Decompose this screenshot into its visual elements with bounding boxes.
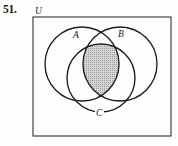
universal-set-label: U: [35, 6, 43, 16]
set-label-a: A: [72, 30, 79, 40]
set-label-b: B: [118, 29, 124, 39]
set-label-c: C: [96, 108, 103, 118]
venn-diagram-figure: 51. A B: [0, 0, 178, 146]
venn-diagram-canvas: A B C U: [0, 0, 178, 146]
